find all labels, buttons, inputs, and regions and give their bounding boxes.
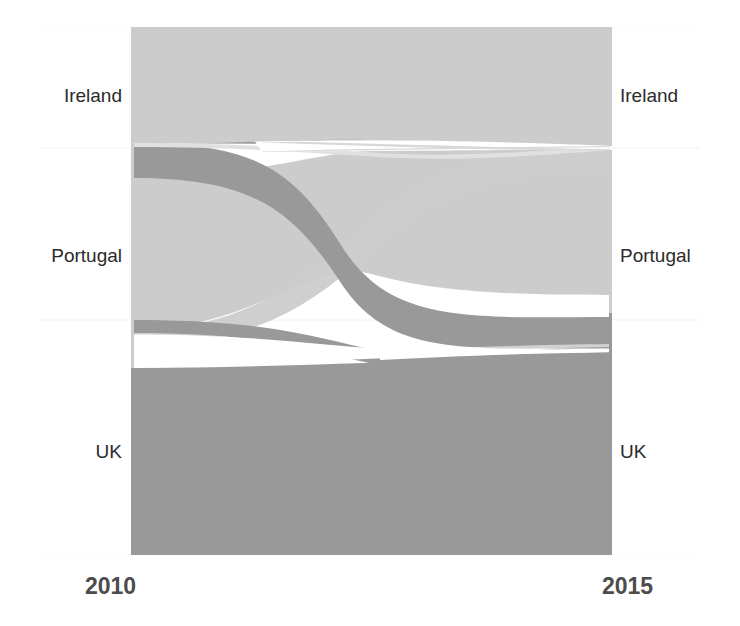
- node-2015-ireland: [609, 27, 612, 146]
- node-label-2010-ireland: Ireland: [40, 86, 122, 105]
- flow-ireland-ireland: [133, 27, 610, 146]
- node-label-2015-uk: UK: [620, 442, 646, 461]
- node-2015-portugal: [609, 150, 612, 313]
- node-2010-ireland: [131, 27, 134, 143]
- alluvial-chart-container: Ireland Portugal UK Ireland Portugal UK …: [0, 0, 740, 626]
- node-label-2015-portugal: Portugal: [620, 246, 691, 265]
- node-2010-portugal: [131, 143, 134, 368]
- flow-uk-uk: [133, 368, 610, 555]
- axis-tick-2010: 2010: [85, 575, 136, 598]
- node-2010-uk: [131, 368, 134, 555]
- flow-ribbons: [133, 27, 610, 555]
- axis-tick-2015: 2015: [602, 575, 653, 598]
- node-label-2010-portugal: Portugal: [32, 246, 122, 265]
- node-2015-uk: [609, 313, 612, 555]
- node-label-2010-uk: UK: [52, 442, 122, 461]
- node-label-2015-ireland: Ireland: [620, 86, 678, 105]
